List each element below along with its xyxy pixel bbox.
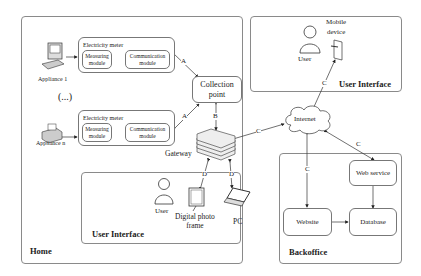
communication-line-1: Communication: [126, 126, 169, 133]
ellipsis-label: (...): [58, 92, 72, 102]
gateway-label: Gateway: [165, 150, 192, 158]
collection-point-line-1: Collection: [193, 80, 241, 90]
pc-laptop-icon: [223, 186, 253, 208]
mobile-user-label: User: [298, 56, 311, 63]
measuring-line-2: module: [83, 60, 111, 67]
appliance-1-label: Appliance 1: [38, 76, 67, 82]
link-c-website-label: C: [305, 166, 310, 173]
meter-n-measuring-module: Measuring module: [82, 123, 112, 142]
link-c-webservice-label: C: [356, 141, 361, 148]
pc-label: PC: [233, 218, 242, 226]
appliance-1-computer-icon: [40, 42, 66, 72]
collection-point: Collection point: [192, 76, 242, 103]
digital-photo-frame-icon: [187, 186, 207, 212]
digital-photo-frame-label: Digital photo frame: [175, 212, 215, 230]
mobile-device-line-2: device: [326, 27, 346, 37]
link-c-gateway-label: C: [256, 128, 261, 135]
meter-1-measuring-module: Measuring module: [82, 50, 112, 69]
photo-frame-line-1: Digital photo: [175, 212, 215, 221]
measuring-line-2: module: [83, 133, 111, 140]
link-a2-label: A: [182, 113, 187, 120]
meter-1-title: Electricity meter: [83, 42, 123, 48]
home-user-icon: [154, 177, 174, 205]
web-service-box: Web service: [349, 160, 397, 186]
meter-n-title: Electricity meter: [83, 115, 123, 121]
communication-line-2: module: [126, 133, 169, 140]
communication-line-1: Communication: [126, 53, 169, 60]
internet-label: Internet: [294, 116, 316, 123]
database-box: Database: [349, 208, 397, 236]
mobile-device-line-1: Mobile: [326, 17, 346, 27]
home-user-label: User: [155, 208, 168, 215]
link-a1-label: A: [181, 58, 186, 65]
website-box: Website: [283, 208, 332, 236]
meter-n-communication-module: Communication module: [125, 123, 170, 142]
meter-1-communication-module: Communication module: [125, 50, 170, 69]
mobile-device-icon: [330, 39, 344, 61]
appliance-n-label: Appliance n: [36, 140, 65, 146]
communication-line-2: module: [126, 60, 169, 67]
mobile-user-icon: [299, 24, 321, 54]
collection-point-line-2: point: [193, 90, 241, 100]
measuring-line-1: Measuring: [83, 53, 111, 60]
mobile-device-label: Mobile device: [326, 17, 346, 37]
link-c-mobile-label: C: [322, 80, 327, 87]
electricity-meter-n: Electricity meter Measuring module Commu…: [78, 110, 175, 146]
measuring-line-1: Measuring: [83, 126, 111, 133]
link-b-label: B: [213, 113, 218, 120]
link-d1-label: D: [202, 171, 207, 178]
electricity-meter-1: Electricity meter Measuring module Commu…: [78, 37, 175, 73]
photo-frame-line-2: frame: [175, 221, 215, 230]
gateway-server-icon: [195, 128, 237, 162]
link-d2-label: D: [229, 171, 234, 178]
